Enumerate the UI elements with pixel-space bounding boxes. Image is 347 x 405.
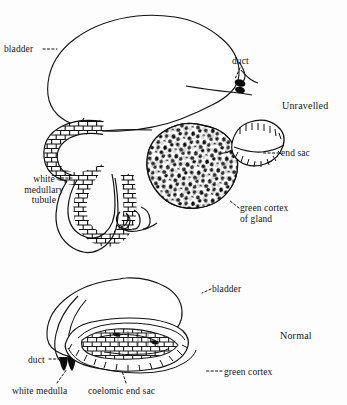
bladder-shape-unravelled bbox=[48, 15, 239, 131]
label-duct-normal: duct bbox=[28, 355, 45, 366]
label-white-medulla: white medulla bbox=[12, 386, 67, 397]
label-white-medullary-tubule-line1: white bbox=[8, 174, 80, 185]
leader-green-cortex bbox=[229, 200, 239, 208]
label-green-cortex-normal: green cortex bbox=[224, 367, 272, 378]
label-bladder-normal: bladder bbox=[212, 284, 241, 295]
leader-bladder-bottom bbox=[202, 289, 211, 293]
panel-title-normal: Normal bbox=[280, 330, 312, 341]
label-coelomic-end-sac: coelomic end sac bbox=[88, 386, 155, 397]
figure-page: bladder duct end sac white medullary tub… bbox=[0, 0, 347, 405]
coelomic-end-sac-shape bbox=[65, 318, 196, 373]
normal-panel-drawing bbox=[47, 278, 196, 373]
label-white-medullary-tubule-line2: medullary bbox=[8, 185, 80, 196]
duct-tip-normal bbox=[59, 357, 68, 371]
label-white-medullary-tubule-line3: tubule bbox=[8, 195, 80, 206]
label-green-cortex-of-gland-line1: green cortex bbox=[240, 203, 336, 214]
label-bladder-unravelled: bladder bbox=[4, 44, 33, 55]
label-white-medullary-tubule: white medullary tubule bbox=[8, 174, 80, 206]
label-green-cortex-of-gland-line2: of gland bbox=[240, 214, 336, 225]
label-end-sac: end sac bbox=[281, 148, 310, 159]
panel-title-unravelled: Unravelled bbox=[282, 100, 328, 111]
leader-white-medulla bbox=[57, 369, 67, 383]
label-duct-unravelled: duct bbox=[232, 56, 249, 67]
label-green-cortex-of-gland: green cortex of gland bbox=[240, 203, 336, 224]
